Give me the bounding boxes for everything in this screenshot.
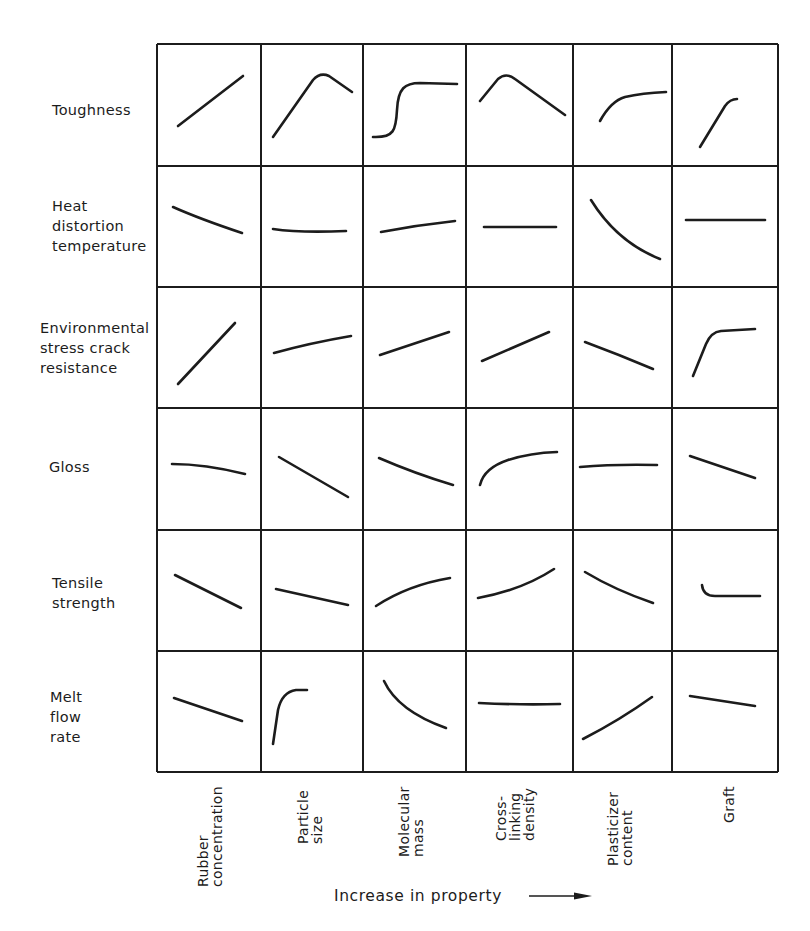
col-label-graft: Graft xyxy=(722,786,736,823)
trend-curve-r6-c1 xyxy=(174,698,242,721)
trend-curve-r2-c5 xyxy=(591,200,660,259)
trend-curve-r2-c2 xyxy=(273,229,346,232)
col-label-line: Particle xyxy=(296,790,310,844)
trend-curve-r4-c6 xyxy=(690,456,755,478)
col-label-line: Molecular xyxy=(397,786,411,857)
trend-curve-r3-c2 xyxy=(274,336,351,353)
trend-curve-r6-c6 xyxy=(690,696,755,706)
col-label-line: Graft xyxy=(722,786,736,823)
trend-curve-r5-c1 xyxy=(175,575,241,608)
right-arrow-icon xyxy=(529,893,592,900)
trend-curve-r1-c6 xyxy=(700,99,737,147)
x-axis-caption: Increase in property xyxy=(334,887,502,905)
trend-curve-r6-c5 xyxy=(583,697,652,739)
col-label-line: content xyxy=(620,792,634,866)
trend-curve-r5-c2 xyxy=(276,589,348,605)
col-label-line: mass xyxy=(411,786,425,857)
grid-lines xyxy=(157,44,778,772)
col-label-line: concentration xyxy=(210,786,224,887)
trend-curve-r6-c3 xyxy=(384,681,446,728)
trend-curve-r4-c5 xyxy=(580,465,657,467)
trend-curve-r4-c3 xyxy=(379,458,453,485)
trend-curve-r5-c3 xyxy=(376,578,450,606)
trend-curve-r2-c3 xyxy=(381,221,455,232)
col-label-line: Cross- xyxy=(494,788,508,841)
trend-curve-r6-c4 xyxy=(479,703,560,704)
trend-curve-r5-c5 xyxy=(585,572,653,603)
trend-curve-r3-c6 xyxy=(693,329,755,376)
trend-curve-r4-c2 xyxy=(279,457,348,497)
col-label-molecular-mass: Molecular mass xyxy=(397,786,425,857)
trend-curve-r4-c4 xyxy=(480,452,557,485)
trend-curve-r1-c1 xyxy=(178,76,243,126)
col-label-line: density xyxy=(522,788,536,841)
trend-curve-r1-c4 xyxy=(480,76,565,116)
col-label-line: linking xyxy=(508,788,522,841)
col-label-plasticizer-content: Plasticizer content xyxy=(606,792,634,866)
trend-curve-r6-c2 xyxy=(273,690,307,744)
trend-curve-r3-c4 xyxy=(482,332,549,361)
col-label-cross-linking-density: Cross- linking density xyxy=(494,788,536,841)
col-label-rubber-concentration: Rubber concentration xyxy=(196,786,224,887)
trend-curve-r1-c2 xyxy=(273,75,352,137)
col-label-line: size xyxy=(310,790,324,844)
trend-curve-r2-c1 xyxy=(173,207,242,233)
trend-curve-r5-c6 xyxy=(702,585,760,596)
trend-curve-r5-c4 xyxy=(478,569,554,598)
trend-curve-r1-c3 xyxy=(373,83,457,137)
col-label-particle-size: Particle size xyxy=(296,790,324,844)
trend-curve-r3-c1 xyxy=(178,323,235,384)
col-label-line: Plasticizer xyxy=(606,792,620,866)
trend-curve-r1-c5 xyxy=(600,92,666,121)
col-label-line: Rubber xyxy=(196,786,210,887)
trend-curve-r3-c3 xyxy=(380,332,449,355)
trend-curve-r4-c1 xyxy=(172,464,245,474)
trend-curve-r3-c5 xyxy=(585,342,653,369)
